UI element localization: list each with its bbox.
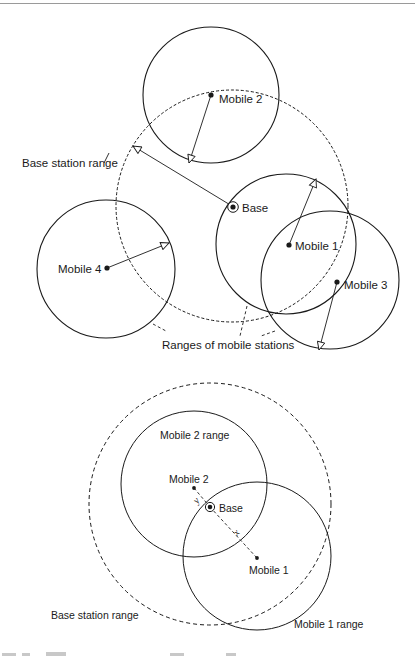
base-range-arrow <box>133 146 232 206</box>
mobile-1-range-label: Mobile 1 range <box>294 618 364 630</box>
mobile-2-label-bottom: Mobile 2 <box>169 473 209 485</box>
mobile-2-range-label: Mobile 2 range <box>160 429 230 441</box>
base-station-icon-bottom <box>205 502 214 511</box>
mobile-3-label: Mobile 3 <box>344 279 387 291</box>
distance-x-label: x <box>230 527 242 539</box>
leader-line-mobile-3 <box>261 331 275 336</box>
mobile-3-node-icon <box>334 279 339 284</box>
base-label-bottom: Base <box>219 502 243 514</box>
mobile-3-range-arrow <box>319 282 337 350</box>
mobile-2-node-icon <box>208 92 213 97</box>
mobile-1-node-icon <box>286 242 291 247</box>
mobile-2-label: Mobile 2 <box>219 93 262 105</box>
bottom-diagram: Mobile 2 range Mobile 2 Base Mobile 1 Ba… <box>51 383 364 630</box>
mobile-1-node-icon-bottom <box>255 556 259 560</box>
hidden-terminal-figure: Mobile 2 Base Mobile 1 Mobile 3 Mobile 4… <box>0 0 415 656</box>
distance-y-label: y <box>190 495 202 507</box>
mobile-4-node-icon <box>104 265 109 270</box>
cut-off-caption-strip <box>2 652 236 656</box>
mobile-4-label: Mobile 4 <box>58 263 102 275</box>
figure-canvas: Mobile 2 Base Mobile 1 Mobile 3 Mobile 4… <box>0 0 415 656</box>
leader-line-mobile-4 <box>153 324 166 331</box>
base-station-icon <box>228 202 239 213</box>
mobile-2-range-arrow <box>189 95 211 163</box>
mobile-4-range-arrow <box>107 243 169 268</box>
base-label: Base <box>242 202 268 214</box>
top-diagram: Mobile 2 Base Mobile 1 Mobile 3 Mobile 4… <box>22 27 399 351</box>
base-station-range-label-bottom: Base station range <box>51 609 139 621</box>
mobile-1-label-bottom: Mobile 1 <box>249 564 289 576</box>
mobile-1-label: Mobile 1 <box>295 240 338 252</box>
mobile-2-node-icon-bottom <box>192 486 196 490</box>
mobile-ranges-label: Ranges of mobile stations <box>162 339 295 351</box>
base-station-range-label: Base station range <box>22 157 118 169</box>
mobile-1-range-arrow <box>289 179 316 245</box>
